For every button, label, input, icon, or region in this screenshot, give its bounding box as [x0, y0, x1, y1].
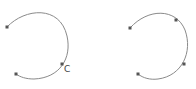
left-arc-path[interactable] — [7, 13, 68, 79]
control-handle[interactable] — [137, 73, 140, 76]
control-handle[interactable] — [183, 63, 186, 66]
arc-label-c: C — [64, 64, 70, 74]
diagram-canvas: C — [0, 0, 196, 89]
left-arc-group[interactable]: C — [6, 13, 71, 79]
control-handle[interactable] — [129, 27, 132, 30]
left-arc-handles[interactable] — [6, 26, 64, 76]
right-arc-group[interactable] — [129, 13, 188, 79]
right-arc-handles[interactable] — [129, 19, 186, 76]
control-handle[interactable] — [15, 73, 18, 76]
control-handle[interactable] — [6, 26, 9, 29]
right-arc-path[interactable] — [130, 13, 188, 79]
control-handle[interactable] — [175, 19, 178, 22]
